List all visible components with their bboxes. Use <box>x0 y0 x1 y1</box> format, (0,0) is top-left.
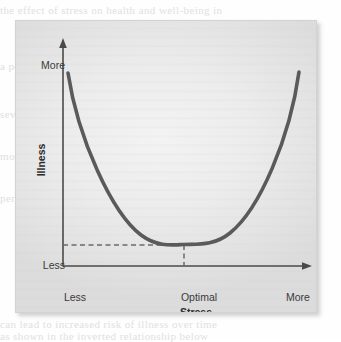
x-axis-arrowhead-icon <box>302 262 312 270</box>
y-axis-title: Illness <box>35 130 47 190</box>
y-axis-tick-less: Less <box>24 259 65 271</box>
chart-panel: More Less Illness Less Optimal More Stre… <box>15 20 317 313</box>
x-axis-title: Stress <box>156 306 236 313</box>
ghost-line: the effect of stress on health and well-… <box>0 4 341 16</box>
y-axis-arrowhead-icon <box>59 38 67 48</box>
ghost-line: as shown in the inverted relationship be… <box>0 330 341 342</box>
y-axis-tick-more: More <box>24 59 65 71</box>
illness-stress-curve <box>68 72 299 245</box>
x-axis-tick-more: More <box>268 291 317 303</box>
ghost-line: can lead to increased risk of illness ov… <box>0 318 341 330</box>
x-axis-tick-less: Less <box>45 291 105 303</box>
x-axis-tick-optimal: Optimal <box>169 291 229 303</box>
